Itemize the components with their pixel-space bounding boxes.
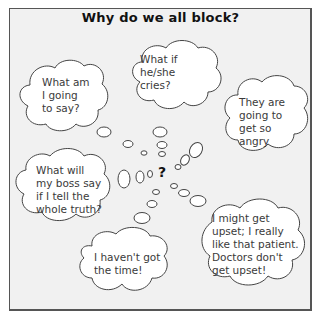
thought-text-what-am-i-going-to-say: What am I going to say? [42, 76, 90, 115]
thought-text-i-might-get-upset: I might get upset; I really like that pa… [212, 212, 299, 277]
thought-bubble [175, 165, 181, 170]
thought-bubble [179, 153, 191, 167]
thought-bubble [136, 171, 144, 183]
thought-bubble [179, 190, 190, 197]
thought-bubble [118, 170, 130, 188]
thought-bubble [134, 213, 150, 224]
thought-bubble [171, 184, 178, 189]
thought-bubble [157, 142, 167, 149]
center-question-mark: ? [158, 164, 166, 180]
thought-text-i-havent-got-the-time: I haven't got the time! [94, 251, 160, 277]
thought-bubble [153, 190, 160, 195]
thought-text-what-if-he-she-cries: What if he/she cries? [140, 53, 178, 92]
thought-bubble [123, 141, 133, 148]
thought-text-what-will-my-boss-say: What will my boss say if I tell the whol… [36, 164, 102, 216]
thought-bubble [147, 201, 157, 208]
thought-bubble [141, 151, 147, 155]
thought-bubble [190, 196, 206, 207]
thought-bubble [153, 127, 167, 137]
thought-bubble [97, 127, 111, 137]
thought-bubble [159, 152, 166, 157]
thought-bubble [148, 171, 153, 178]
thought-text-they-are-going-to-get-so-angry: They are going to get so angry [239, 96, 285, 148]
